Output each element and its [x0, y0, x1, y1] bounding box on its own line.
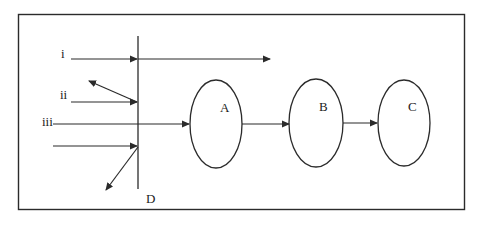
ray-ii-reflected-arrow: [89, 81, 137, 102]
ray-iii-label: iii: [42, 115, 53, 128]
ray-i-label: i: [61, 47, 65, 60]
node-a-ellipse: [190, 80, 242, 168]
barrier-d-label: D: [146, 192, 155, 205]
ray-iv-reflected-arrow: [106, 147, 138, 190]
node-a-label: A: [220, 101, 229, 114]
node-c-label: C: [408, 100, 417, 113]
node-c-ellipse: [378, 80, 430, 166]
node-b-ellipse: [289, 79, 343, 167]
node-b-label: B: [319, 100, 328, 113]
ray-ii-label: ii: [60, 88, 67, 101]
